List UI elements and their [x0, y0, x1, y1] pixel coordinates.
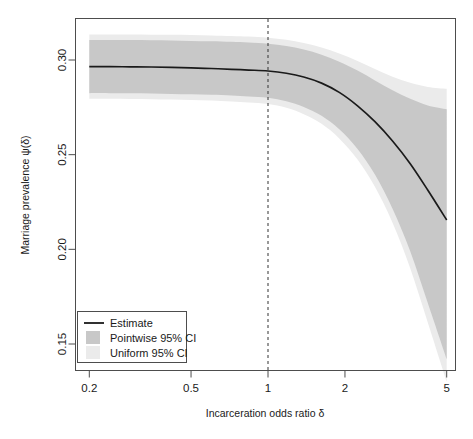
x-tick-label-5: 5 — [443, 382, 449, 394]
y-tick-label-0.15: 0.15 — [56, 333, 68, 355]
legend-label-estimate: Estimate — [110, 317, 153, 329]
legend-label-uniform-ci: Uniform 95% CI — [110, 347, 188, 359]
x-tick-label-0.5: 0.5 — [183, 382, 199, 394]
x-tick-label-0.2: 0.2 — [81, 382, 97, 394]
legend-marker-uniform-ci — [86, 346, 100, 359]
y-tick-label-0.25: 0.25 — [56, 143, 68, 165]
legend: Estimate Pointwise 95% CI Uniform 95% CI — [78, 312, 197, 363]
sensitivity-analysis-plot: 0.20.5125 0.300.250.200.15 Incarceration… — [0, 0, 473, 439]
x-tick-label-2: 2 — [342, 382, 348, 394]
legend-label-pointwise-ci: Pointwise 95% CI — [110, 332, 196, 344]
legend-marker-pointwise-ci — [86, 331, 100, 344]
chart-container: 0.20.5125 0.300.250.200.15 Incarceration… — [0, 0, 473, 439]
y-tick-label-0.30: 0.30 — [56, 49, 68, 71]
y-tick-label-0.20: 0.20 — [56, 238, 68, 260]
x-axis-title: Incarceration odds ratio δ — [206, 407, 325, 419]
x-tick-label-1: 1 — [265, 382, 271, 394]
y-axis-title: Marriage prevalence ψ(δ) — [19, 136, 31, 255]
